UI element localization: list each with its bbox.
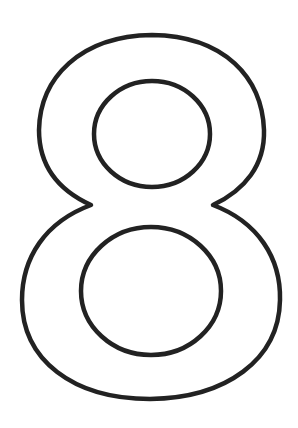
- eight-upper-counter: [94, 81, 210, 187]
- numeral-eight-outline: [0, 0, 298, 428]
- eight-outer-outline: [22, 35, 280, 399]
- eight-lower-counter: [81, 227, 221, 355]
